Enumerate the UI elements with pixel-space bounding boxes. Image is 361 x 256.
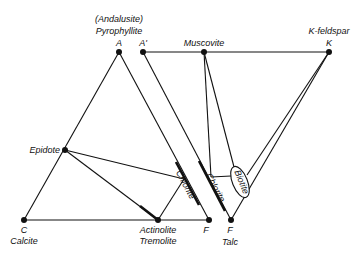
label-k-feldspar: K-feldspar (308, 26, 350, 36)
label-chlorite-left: Chlorite (174, 169, 197, 201)
label-actinolite: Actinolite (139, 225, 177, 235)
tie-muscovite-biotite (204, 52, 234, 167)
point-a (116, 49, 122, 55)
tie-muscovite-chlorite (204, 52, 211, 177)
label-k: K (326, 38, 333, 48)
right-triangle (140, 49, 332, 223)
label-muscovite: Muscovite (184, 38, 225, 48)
label-f-left: F (203, 225, 209, 235)
phase-diagram: (Andalusite) Pyrophyllite A A' Muscovite… (0, 0, 361, 256)
point-f-right (228, 217, 234, 223)
label-talc: Talc (222, 237, 239, 247)
label-a: A (115, 38, 122, 48)
point-k (326, 49, 332, 55)
point-f-left (206, 217, 212, 223)
edge-a-c (24, 52, 119, 220)
point-aprime (140, 49, 146, 55)
point-epidote (62, 147, 68, 153)
left-triangle (21, 49, 212, 223)
label-epidote: Epidote (29, 145, 60, 155)
tie-chlorite-actinolite (158, 179, 184, 220)
point-c (21, 217, 27, 223)
actinolite-range (140, 206, 158, 220)
label-aprime: A' (138, 38, 147, 48)
tie-epidote-chlorite (65, 150, 184, 179)
point-actinolite (155, 217, 161, 223)
label-tremolite: Tremolite (140, 236, 177, 246)
label-f-right: F (227, 225, 233, 235)
label-calcite: Calcite (10, 236, 38, 246)
label-pyrophyllite: Pyrophyllite (96, 26, 143, 36)
tie-k-biotite (247, 52, 329, 175)
point-muscovite (201, 49, 207, 55)
label-andalusite: (Andalusite) (95, 14, 143, 24)
label-c: C (21, 225, 28, 235)
